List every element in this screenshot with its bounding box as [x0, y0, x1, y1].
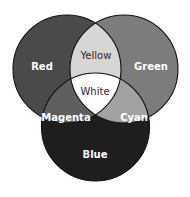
- label-yellow: Yellow: [80, 50, 112, 61]
- label-green: Green: [134, 61, 168, 72]
- label-magenta: Magenta: [41, 112, 90, 123]
- label-blue: Blue: [83, 149, 108, 160]
- label-cyan: Cyan: [120, 112, 148, 123]
- label-red: Red: [31, 61, 53, 72]
- rgb-venn-diagram: Red Green Yellow White Magenta Cyan Blue: [0, 0, 190, 197]
- label-white: White: [80, 86, 109, 97]
